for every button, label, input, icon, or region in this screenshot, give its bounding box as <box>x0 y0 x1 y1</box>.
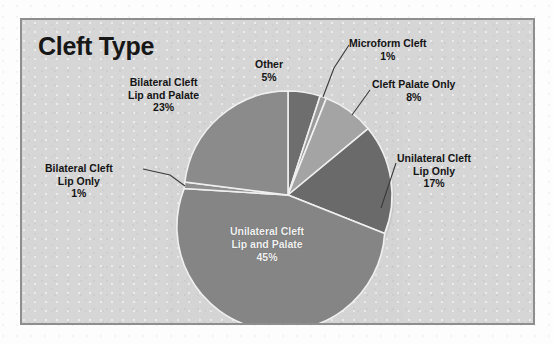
pie-slice-bilateral-cleft-lip-and-palate[interactable] <box>185 91 288 195</box>
pie-label-other-name: Other <box>255 58 283 70</box>
pie-label-unilateral-cleft-lip-and-palate-line2: Lip and Palate <box>231 238 302 250</box>
leader-line-cleft-palate-only <box>352 90 370 115</box>
pie-label-microform-cleft: Microform Cleft 1% <box>349 37 427 62</box>
pie-label-cleft-palate-only-name: Cleft Palate Only <box>372 78 455 90</box>
pie-label-cleft-palate-only-percent: 8% <box>372 91 455 104</box>
pie-label-cleft-palate-only: Cleft Palate Only 8% <box>372 78 455 103</box>
pie-label-bilateral-cleft-lip-and-palate-percent: 23% <box>128 101 199 114</box>
pie-label-bilateral-cleft-lip-and-palate: Bilateral Cleft Lip and Palate 23% <box>128 76 199 114</box>
pie-label-bilateral-cleft-lip-only: Bilateral Cleft Lip Only 1% <box>45 162 113 200</box>
pie-label-bilateral-cleft-lip-only-percent: 1% <box>45 187 113 200</box>
pie-label-unilateral-cleft-lip-and-palate-line1: Unilateral Cleft <box>230 225 304 237</box>
leader-line-microform-cleft <box>323 45 349 97</box>
pie-slices <box>177 91 392 323</box>
pie-label-unilateral-cleft-lip-only-line2: Lip Only <box>413 165 455 177</box>
leader-line-bilateral-cleft-lip-only <box>143 169 185 186</box>
pie-label-unilateral-cleft-lip-and-palate-percent: 45% <box>256 251 277 263</box>
pie-label-unilateral-cleft-lip-only-percent: 17% <box>397 177 471 190</box>
pie-label-bilateral-cleft-lip-only-line1: Bilateral Cleft <box>45 162 113 174</box>
chart-screenshot: Cleft Type <box>0 0 553 344</box>
pie-label-unilateral-cleft-lip-and-palate: Unilateral Cleft Lip and Palate 45% <box>199 225 335 264</box>
pie-label-other: Other 5% <box>255 58 283 83</box>
chart-frame: Cleft Type <box>20 18 535 325</box>
pie-label-bilateral-cleft-lip-only-line2: Lip Only <box>58 175 100 187</box>
pie-label-microform-cleft-name: Microform Cleft <box>349 37 427 49</box>
pie-label-bilateral-cleft-lip-and-palate-line2: Lip and Palate <box>128 89 199 101</box>
pie-label-bilateral-cleft-lip-and-palate-line1: Bilateral Cleft <box>130 76 198 88</box>
pie-label-other-percent: 5% <box>255 71 283 84</box>
pie-label-unilateral-cleft-lip-only: Unilateral Cleft Lip Only 17% <box>397 152 471 190</box>
pie-label-unilateral-cleft-lip-only-line1: Unilateral Cleft <box>397 152 471 164</box>
pie-label-microform-cleft-percent: 1% <box>349 50 427 63</box>
